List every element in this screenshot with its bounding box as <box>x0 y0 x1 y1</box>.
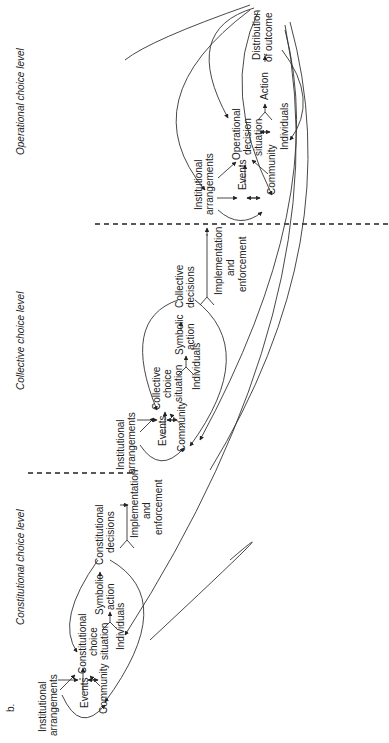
coll-community-label: Community <box>176 401 187 452</box>
coll-events-label: Events <box>157 415 168 446</box>
institutional-analysis-diagram: b. Constitutional choice level Collectiv… <box>0 0 389 743</box>
op-inst-label-1: Institutional <box>193 159 204 210</box>
link-coll-to-const <box>150 542 252 640</box>
figure-label: b. <box>5 704 16 712</box>
coll-situation-label-2: choice <box>162 369 173 398</box>
const-situation-label-1: Constitutional <box>77 613 88 674</box>
op-situation-label-2: decision <box>242 118 253 155</box>
coll-symbolic-label-1: Symbolic <box>174 314 185 355</box>
const-impl-label-2: and <box>141 502 152 519</box>
level-title-operational: Operational choice level <box>15 47 26 155</box>
coll-decisions-label-2: decisions <box>185 266 196 308</box>
const-situation-label-3: situation <box>99 623 110 660</box>
coll-inst-label-1: Institutional <box>115 419 126 470</box>
coll-impl-label-1: Implementation <box>213 227 224 295</box>
const-impl-label-3: enforcement <box>153 479 164 535</box>
op-situation-label-3: situation <box>253 119 264 156</box>
coll-inst-label-2: arrangements <box>126 412 137 474</box>
op-inst-label-2: arrangements <box>204 153 215 215</box>
op-action-label: Action <box>259 72 270 100</box>
const-inst-label-2: arrangements <box>48 674 59 736</box>
const-decisions-label-1: Constitutional <box>94 504 105 565</box>
const-decisions-label-2: decisions <box>105 511 116 553</box>
coll-situation-label-1: Collective <box>151 366 162 410</box>
coll-decisions-label-1: Collective <box>174 264 185 308</box>
level-title-collective: Collective choice level <box>15 291 26 390</box>
level-title-constitutional: Constitutional choice level <box>15 509 26 625</box>
coll-impl-label-3: enforcement <box>237 236 248 292</box>
const-situation-label-2: choice <box>88 627 99 656</box>
coll-symbolic-label-2: action <box>185 323 196 350</box>
const-events-label: Events <box>79 677 90 708</box>
const-individuals-label: Individuals <box>115 603 126 650</box>
op-outcome-label-2: of outcome <box>263 12 274 62</box>
coll-impl-label-2: and <box>225 259 236 276</box>
const-symbolic-label-2: action <box>105 583 116 610</box>
const-symbolic-label-1: Symbolic <box>94 574 105 615</box>
collective-level-group: Institutional arrangements Events Commun… <box>115 227 248 474</box>
const-impl-label-1: Implementation <box>129 470 140 538</box>
operational-level-group: Institutional arrangements Events Commun… <box>125 5 308 635</box>
op-individuals-label: Individuals <box>279 103 290 150</box>
op-events-label: Events <box>237 159 248 190</box>
const-inst-label-1: Institutional <box>37 681 48 732</box>
op-situation-label-1: Operational <box>231 108 242 160</box>
op-outcome-label-1: Distribution <box>251 10 262 60</box>
op-community-label: Community <box>266 144 277 195</box>
